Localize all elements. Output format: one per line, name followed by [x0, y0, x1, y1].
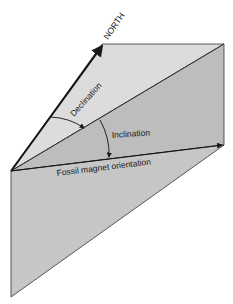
north-label: NORTH	[101, 11, 126, 42]
paleomagnetism-diagram: NORTH Declination Inclination Fossil mag…	[0, 0, 233, 304]
